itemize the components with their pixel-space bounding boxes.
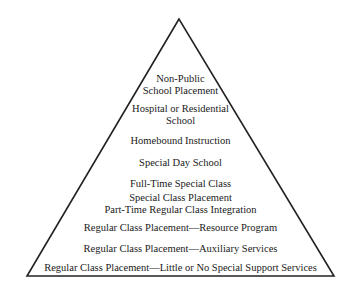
level-text: Regular Class Placement—Resource Program xyxy=(0,222,361,234)
level-text: Homebound Instruction xyxy=(0,135,361,147)
level-text: Hospital or Residential xyxy=(0,103,361,115)
level-auxiliary-services: Regular Class Placement—Auxiliary Servic… xyxy=(0,243,361,255)
level-full-time-special-class: Full-Time Special Class xyxy=(0,178,361,190)
level-text: Regular Class Placement—Auxiliary Servic… xyxy=(0,243,361,255)
level-non-public-school-placement: Non-Public School Placement xyxy=(0,73,361,97)
level-text: Special Class Placement xyxy=(0,192,361,204)
pyramid-diagram: Non-Public School Placement Hospital or … xyxy=(0,0,361,292)
level-special-class-part-time-integration: Special Class Placement Part-Time Regula… xyxy=(0,192,361,216)
level-special-day-school: Special Day School xyxy=(0,157,361,169)
level-resource-program: Regular Class Placement—Resource Program xyxy=(0,222,361,234)
level-little-or-no-support: Regular Class Placement—Little or No Spe… xyxy=(0,262,361,274)
level-hospital-residential-school: Hospital or Residential School xyxy=(0,103,361,127)
level-text: Regular Class Placement—Little or No Spe… xyxy=(0,262,361,274)
level-text: Full-Time Special Class xyxy=(0,178,361,190)
level-text: Part-Time Regular Class Integration xyxy=(0,204,361,216)
level-text: School xyxy=(0,115,361,127)
level-text: School Placement xyxy=(0,85,361,97)
level-text: Non-Public xyxy=(0,73,361,85)
level-text: Special Day School xyxy=(0,157,361,169)
level-homebound-instruction: Homebound Instruction xyxy=(0,135,361,147)
